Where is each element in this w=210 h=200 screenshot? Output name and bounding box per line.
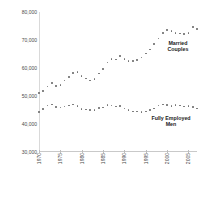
- y-axis-tick-label: 50,000: [3, 93, 37, 99]
- data-point: [38, 111, 40, 113]
- data-point: [107, 104, 109, 106]
- data-point: [119, 55, 121, 57]
- data-point: [107, 62, 109, 64]
- data-point: [171, 30, 173, 32]
- x-axis-tick-label: 1990: [122, 153, 127, 177]
- data-point: [81, 108, 83, 110]
- y-axis-tick-label: 70,000: [3, 37, 37, 43]
- data-point: [111, 58, 113, 60]
- x-axis-tick-label: 1985: [101, 153, 106, 177]
- data-point: [51, 104, 53, 106]
- data-point: [171, 105, 173, 107]
- data-point: [42, 108, 44, 110]
- data-point: [188, 105, 190, 107]
- data-point: [42, 90, 44, 92]
- data-point: [132, 111, 134, 113]
- data-point: [141, 111, 143, 113]
- x-axis-tick-label: 1970: [37, 153, 42, 177]
- data-point: [98, 73, 100, 75]
- data-point: [158, 105, 160, 107]
- data-point: [60, 107, 62, 109]
- data-point: [183, 33, 185, 35]
- series-annotation-fully-employed-men-line2: Men: [138, 121, 204, 127]
- data-point: [51, 82, 53, 84]
- data-point: [89, 80, 91, 82]
- y-axis-tick-label: 40,000: [3, 121, 37, 127]
- y-axis-tick-label: 60,000: [3, 65, 37, 71]
- data-point: [128, 60, 130, 62]
- data-point: [55, 106, 57, 108]
- data-point: [188, 32, 190, 34]
- data-point: [47, 86, 49, 88]
- data-point: [175, 32, 177, 34]
- data-point: [98, 107, 100, 109]
- data-point: [132, 60, 134, 62]
- data-point: [102, 68, 104, 70]
- data-point: [128, 109, 130, 111]
- x-axis-tick-label: 2005: [186, 153, 191, 177]
- data-point: [38, 92, 40, 94]
- data-point: [124, 108, 126, 110]
- data-point: [162, 32, 164, 34]
- data-point: [81, 75, 83, 77]
- data-point: [72, 104, 74, 106]
- data-point: [64, 106, 66, 108]
- data-point: [149, 109, 151, 111]
- chart-container: 30,00040,00050,00060,00070,00080,000 197…: [0, 0, 210, 200]
- data-point: [85, 109, 87, 111]
- data-point: [175, 104, 177, 106]
- plot-area: [39, 12, 197, 152]
- series-annotation-married-couples: Married Couples: [152, 40, 204, 53]
- data-point: [166, 104, 168, 106]
- data-point: [94, 78, 96, 80]
- data-point: [119, 105, 121, 107]
- data-point: [136, 111, 138, 113]
- data-point: [85, 78, 87, 80]
- data-point: [192, 26, 194, 28]
- data-point: [153, 108, 155, 110]
- data-point: [192, 106, 194, 108]
- data-point: [196, 108, 198, 110]
- x-axis-tick-label: 2000: [165, 153, 170, 177]
- data-point: [183, 106, 185, 108]
- data-point: [47, 105, 49, 107]
- data-point: [158, 38, 160, 40]
- data-point: [115, 59, 117, 61]
- data-point: [136, 59, 138, 61]
- x-axis-tick-label: 1975: [58, 153, 63, 177]
- data-point: [111, 105, 113, 107]
- x-axis-tick-label: 1980: [80, 153, 85, 177]
- data-point: [102, 107, 104, 109]
- x-axis-tick-labels: 19701975198019851990199520002005: [39, 153, 197, 183]
- data-point: [89, 109, 91, 111]
- data-point: [179, 105, 181, 107]
- data-point: [55, 85, 57, 87]
- data-point: [72, 72, 74, 74]
- data-point: [124, 58, 126, 60]
- data-point: [94, 109, 96, 111]
- data-point: [115, 106, 117, 108]
- data-point: [141, 57, 143, 59]
- data-point: [162, 104, 164, 106]
- series-annotation-married-couples-line2: Couples: [152, 46, 204, 52]
- data-point: [77, 71, 79, 73]
- data-point: [149, 49, 151, 51]
- data-point: [68, 76, 70, 78]
- y-axis-tick-labels: 30,00040,00050,00060,00070,00080,000: [0, 0, 37, 200]
- data-point: [196, 28, 198, 30]
- y-axis-tick-label: 30,000: [3, 149, 37, 155]
- series-annotation-fully-employed-men: Fully Employed Men: [138, 115, 204, 128]
- data-point: [60, 84, 62, 86]
- data-point: [145, 53, 147, 55]
- data-point: [166, 29, 168, 31]
- data-point: [179, 33, 181, 35]
- data-point: [68, 105, 70, 107]
- y-axis-tick-label: 80,000: [3, 9, 37, 15]
- data-point: [145, 111, 147, 113]
- x-axis-tick-label: 1995: [144, 153, 149, 177]
- data-point: [77, 105, 79, 107]
- data-point: [64, 80, 66, 82]
